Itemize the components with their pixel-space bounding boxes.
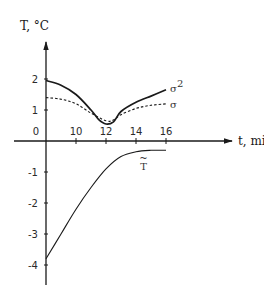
y-tick-label: 2	[32, 74, 38, 85]
axes	[14, 42, 232, 285]
y-tick-label: -4	[28, 260, 38, 271]
x-origin-label: 0	[33, 126, 39, 137]
chart: 10121416021-1-2-3-4 T, °Ct, minσ2σT~	[0, 0, 264, 302]
x-axis-title: t, min	[238, 134, 264, 148]
y-tick-label: 1	[32, 105, 38, 116]
x-tick-label: 12	[100, 126, 113, 137]
series-t-tilde-line	[46, 150, 166, 259]
labels: T, °Ct, minσ2σT~	[20, 19, 264, 172]
y-tick-label: -1	[28, 167, 38, 178]
series-sigma-line	[46, 98, 166, 122]
x-tick-label: 10	[70, 126, 83, 137]
series-label-sigma-squared-sup: 2	[177, 78, 183, 89]
y-tick-label: -3	[28, 229, 38, 240]
series-label-sigma: σ	[170, 99, 177, 110]
y-tick-label: -2	[28, 198, 38, 209]
tilde-accent: ~	[139, 152, 147, 163]
x-tick-label: 16	[160, 126, 173, 137]
series-sigma-squared-line	[46, 81, 166, 125]
y-axis-title: T, °C	[20, 19, 49, 33]
ticks: 10121416021-1-2-3-4	[28, 74, 172, 271]
series-label-sigma-squared: σ	[170, 83, 177, 94]
x-tick-label: 14	[130, 126, 143, 137]
series-lines	[46, 81, 166, 259]
